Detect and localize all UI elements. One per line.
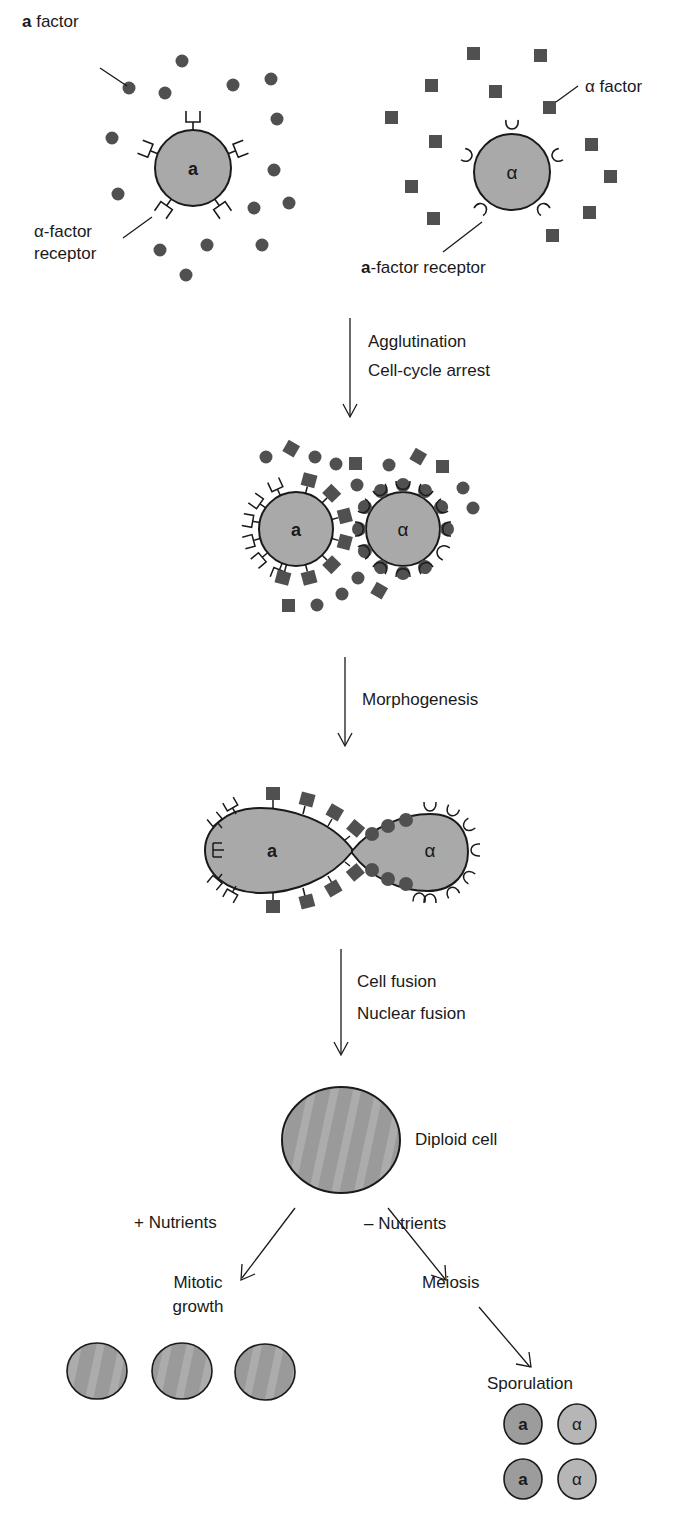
step-2-line-1: Morphogenesis [362,690,478,710]
step-3-line-1: Cell fusion [357,972,436,992]
diploid-cell-label: Diploid cell [415,1130,497,1150]
yeast-mating-diagram: a [0,0,695,1528]
arrow-morphogenesis [338,657,352,746]
arrow-sporulation [479,1307,531,1367]
a-factor-receptor-label: a-factor receptor [361,258,486,278]
a-factor-label: a factor [22,12,79,32]
agglutinated-cells: a α [242,440,480,612]
plus-nutrients-label: + Nutrients [134,1213,217,1233]
agglutinated-alpha-label: α [398,519,409,540]
step-3-line-2: Nuclear fusion [357,1004,466,1024]
spore-alpha-2-label: α [572,1470,582,1489]
alpha-factor-receptor-label-1: α-factor [34,222,92,242]
a-cell-group: a [100,55,296,282]
diploid-cell [282,1087,400,1193]
step-1-line-1: Agglutination [368,332,466,352]
a-cell-label: a [188,159,199,179]
shmoo-cells: a α [205,787,480,913]
arrow-fusion [334,949,348,1055]
alpha-factor-receptor-label-2: receptor [34,244,96,264]
agglutinated-a-label: a [291,520,302,540]
arrow-agglutination [343,318,357,417]
arrow-plus-nutrients [241,1208,295,1280]
alpha-cell-group: α [385,47,617,252]
spore-a-2-label: a [518,1470,528,1489]
diagram-canvas: a [0,0,695,1528]
mitotic-growth-label-2: growth [140,1297,256,1317]
mitotic-daughter-cells [67,1343,295,1400]
spore-a-1-label: a [518,1415,528,1434]
alpha-cell-label: α [507,162,518,183]
step-1-line-2: Cell-cycle arrest [368,361,490,381]
shmoo-a-label: a [267,841,278,861]
alpha-factor-label: α factor [585,77,642,97]
mitotic-growth-label-1: Mitotic [140,1273,256,1293]
spore-alpha-1-label: α [572,1415,582,1434]
minus-nutrients-label: – Nutrients [364,1214,446,1234]
shmoo-alpha-label: α [425,840,436,861]
sporulation-label: Sporulation [487,1374,573,1394]
meiosis-label: Meiosis [422,1273,480,1293]
